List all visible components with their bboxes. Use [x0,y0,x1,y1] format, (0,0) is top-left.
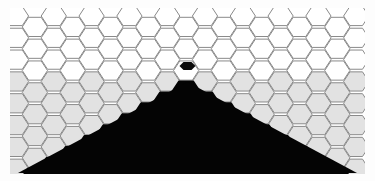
figure-root: Hexagonal lattice with triangular dark r… [0,0,375,181]
top-margin-strip [0,0,375,8]
hex-lattice-diagram [0,0,375,181]
bottom-margin-strip [0,174,375,181]
right-margin-strip [365,0,375,181]
left-margin-strip [0,0,10,181]
